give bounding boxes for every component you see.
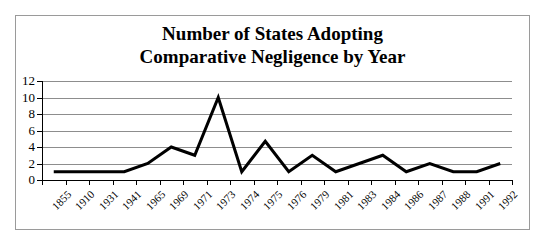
x-axis-tick-label: 1910 (73, 188, 97, 212)
x-axis-tick (230, 180, 231, 185)
x-axis-tick (418, 180, 419, 185)
x-axis-tick-label: 1965 (143, 188, 167, 212)
x-axis-tick (89, 180, 90, 185)
x-axis-tick (371, 180, 372, 185)
x-axis-tick (489, 180, 490, 185)
y-axis-tick-label: 6 (29, 123, 36, 139)
chart-figure: Number of States Adopting Comparative Ne… (15, 15, 530, 230)
x-axis-tick (66, 180, 67, 185)
x-axis-tick (113, 180, 114, 185)
x-axis-tick-label: 1984 (378, 188, 402, 212)
x-axis-tick-label: 1991 (472, 188, 496, 212)
x-axis-tick-label: 1992 (496, 188, 520, 212)
x-axis-tick-label: 1988 (449, 188, 473, 212)
data-series-line (42, 81, 512, 180)
chart-title-line-1: Number of States Adopting (16, 22, 529, 45)
y-axis-tick-label: 8 (29, 106, 36, 122)
x-axis-tick-label: 1973 (214, 188, 238, 212)
x-axis-tick-label: 1976 (284, 188, 308, 212)
x-axis-tick-label: 1931 (96, 188, 120, 212)
y-axis-tick-label: 2 (29, 156, 36, 172)
plot-area: 121086420 (42, 81, 512, 180)
y-axis-tick-label: 12 (22, 73, 35, 89)
x-axis-tick-label: 1969 (167, 188, 191, 212)
chart-title: Number of States Adopting Comparative Ne… (16, 22, 529, 68)
x-axis-tick-label: 1981 (331, 188, 355, 212)
x-axis-tick (207, 180, 208, 185)
x-axis-tick (254, 180, 255, 185)
x-axis-tick (395, 180, 396, 185)
x-axis-tick (160, 180, 161, 185)
x-axis-tick-label: 1941 (120, 188, 144, 212)
x-axis-tick-label: 1971 (190, 188, 214, 212)
x-axis-tick-label: 1986 (402, 188, 426, 212)
chart-title-line-2: Comparative Negligence by Year (16, 45, 529, 68)
x-axis-tick-label: 1983 (355, 188, 379, 212)
x-axis-tick-label: 1979 (308, 188, 332, 212)
x-axis-tick (324, 180, 325, 185)
x-axis-tick-label: 1987 (425, 188, 449, 212)
x-axis-tick-label: 1855 (49, 188, 73, 212)
y-axis-tick-label: 0 (29, 172, 36, 188)
x-axis-tick-label: 1974 (237, 188, 261, 212)
x-axis-tick (42, 180, 43, 185)
series-polyline (54, 98, 501, 172)
x-axis-labels: 1855191019311941196519691971197319741975… (42, 188, 512, 232)
x-axis-tick (348, 180, 349, 185)
x-axis-tick (465, 180, 466, 185)
x-axis-tick (183, 180, 184, 185)
x-axis-tick (277, 180, 278, 185)
x-axis-tick (301, 180, 302, 185)
x-axis-tick-label: 1975 (261, 188, 285, 212)
x-axis-tick (512, 180, 513, 185)
x-axis-tick (136, 180, 137, 185)
y-axis-tick-label: 10 (22, 90, 35, 106)
y-axis-tick-label: 4 (29, 139, 36, 155)
x-axis-tick (442, 180, 443, 185)
